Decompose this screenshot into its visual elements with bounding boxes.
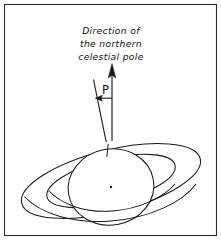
caption-block: Direction of the northern celestial pole bbox=[78, 25, 144, 62]
angle-label-p: P bbox=[102, 83, 109, 97]
caption-line-1: Direction of bbox=[82, 25, 141, 36]
saturn-diagram-svg: Direction of the northern celestial pole… bbox=[0, 0, 221, 240]
caption-line-2: the northern bbox=[80, 38, 142, 49]
figure-root: Direction of the northern celestial pole… bbox=[0, 0, 221, 240]
planet-center-dot bbox=[110, 186, 112, 188]
caption-line-3: celestial pole bbox=[78, 51, 144, 62]
